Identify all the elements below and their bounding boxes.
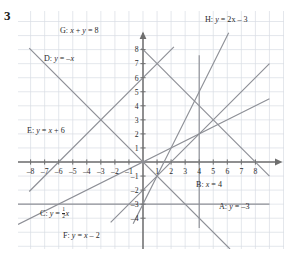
line-label-G: G: x + y = 8 [60, 27, 99, 35]
y-tick-label: 5 [135, 88, 139, 97]
y-tick-label: 2 [135, 130, 139, 139]
y-tick-label: –2 [130, 186, 139, 195]
y-tick-label: 6 [135, 74, 139, 83]
line-label-D: D: y = –x [44, 55, 74, 63]
x-tick-label: –7 [40, 167, 49, 176]
line-label-E: E: y = x + 6 [27, 127, 65, 135]
y-tick-label: 8 [135, 45, 139, 54]
x-tick-label: 8 [253, 167, 257, 176]
y-tick-label: –1 [130, 172, 139, 181]
x-tick-label: 7 [239, 167, 243, 176]
x-tick-label: –8 [26, 167, 35, 176]
plotted-line-H [133, 33, 229, 224]
x-tick-label: –2 [110, 167, 119, 176]
y-tick-label: –3 [130, 200, 139, 209]
x-tick-label: 3 [183, 167, 187, 176]
x-tick-label: 4 [197, 167, 201, 176]
x-axis-arrow [275, 159, 283, 166]
line-label-C: C: y = 12x [40, 207, 69, 220]
y-tick-label: 4 [135, 102, 139, 111]
x-tick-label: 2 [169, 167, 173, 176]
x-tick-label: 6 [225, 167, 229, 176]
line-label-H: H: y = 2x – 3 [205, 16, 248, 24]
y-tick-label: 7 [135, 59, 139, 68]
y-tick-label: 3 [135, 116, 139, 125]
x-tick-label: –5 [68, 167, 77, 176]
x-tick-label: 5 [211, 167, 215, 176]
x-tick-label: –4 [82, 167, 91, 176]
line-label-A: A: y = –3 [219, 203, 249, 211]
plotted-line-G [142, 48, 270, 176]
x-tick-label: –3 [96, 167, 105, 176]
x-tick-label: 1 [155, 167, 159, 176]
line-label-F: F: y = x – 2 [63, 232, 100, 240]
x-tick-label: –6 [54, 167, 63, 176]
worksheet-figure: 3 –8–7–6–5–4–3–2–112345678–4–3–2–1123456… [0, 0, 284, 256]
line-label-B: B: x = 4 [196, 181, 222, 189]
y-tick-label: –4 [130, 214, 139, 223]
question-number: 3 [4, 9, 11, 22]
y-tick-label: 1 [135, 144, 139, 153]
